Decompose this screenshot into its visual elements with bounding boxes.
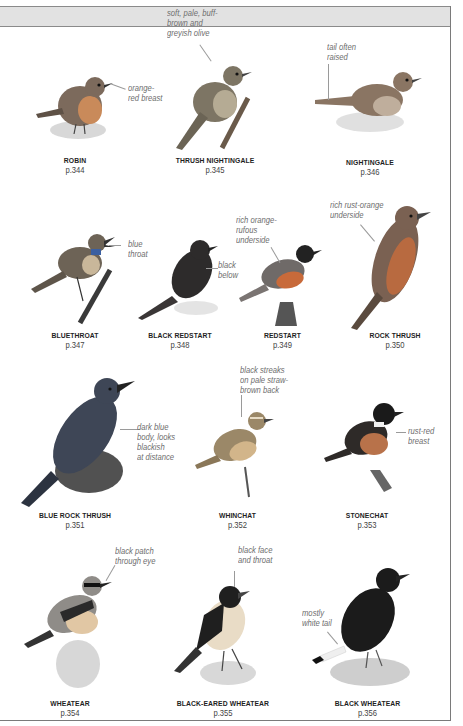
black-wheatear-page-ref: p.356 bbox=[319, 708, 417, 718]
whinchat-annotation: black streaks on pale straw- brown back bbox=[240, 365, 288, 395]
page-header-band bbox=[0, 6, 451, 27]
black-eared-wheatear-name: BLACK-EARED WHEATEAR bbox=[176, 699, 270, 708]
nightingale-name: NIGHTINGALE bbox=[315, 158, 426, 167]
bird-card-rock-thrush: rich rust-orange underside ROCK THRUSH p… bbox=[345, 200, 445, 355]
robin-page-ref: p.344 bbox=[28, 165, 122, 175]
stonechat-illustration-icon bbox=[322, 400, 412, 500]
black-wheatear-name: BLACK WHEATEAR bbox=[319, 699, 417, 708]
whinchat-name: WHINCHAT bbox=[201, 511, 273, 520]
nightingale-leader-line bbox=[328, 64, 329, 100]
whinchat-page-ref: p.352 bbox=[201, 520, 273, 530]
page-right-border bbox=[450, 6, 451, 721]
blue-rock-thrush-annotation: dark blue body, looks blackish at distan… bbox=[137, 422, 175, 462]
wheatear-illustration-icon bbox=[20, 570, 120, 690]
stonechat-name: STONECHAT bbox=[329, 511, 406, 520]
whinchat-leader-line bbox=[241, 395, 242, 417]
black-eared-wheatear-annotation: black face and throat bbox=[238, 545, 272, 565]
robin-name: ROBIN bbox=[28, 156, 122, 165]
redstart-page-ref: p.349 bbox=[242, 340, 323, 350]
bluethroat-name: BLUETHROAT bbox=[33, 331, 118, 340]
redstart-name: REDSTART bbox=[242, 331, 323, 340]
black-redstart-page-ref: p.348 bbox=[138, 340, 223, 350]
bird-card-black-eared-wheatear: black face and throat BLACK-EARED WHEATE… bbox=[168, 575, 278, 720]
page-bottom-border bbox=[0, 720, 451, 721]
rock-thrush-annotation: rich rust-orange underside bbox=[330, 200, 384, 220]
bluethroat-page-ref: p.347 bbox=[33, 340, 118, 350]
redstart-illustration-icon bbox=[235, 230, 330, 330]
rock-thrush-page-ref: p.350 bbox=[353, 340, 438, 350]
bird-card-black-wheatear: mostly white tail BLACK WHEATEAR p.356 bbox=[310, 560, 425, 720]
stonechat-annotation: rust-red breast bbox=[408, 426, 434, 446]
wheatear-annotation: black patch through eye bbox=[115, 546, 155, 566]
wheatear-page-ref: p.354 bbox=[28, 708, 113, 718]
stonechat-leader-line bbox=[396, 432, 406, 433]
thrush-nightingale-name: THRUSH NIGHTINGALE bbox=[168, 156, 262, 165]
thrush-nightingale-annotation: soft, pale, buff- brown and greyish oliv… bbox=[167, 8, 218, 38]
black-eared-wheatear-illustration-icon bbox=[168, 575, 278, 690]
nightingale-page-ref: p.346 bbox=[315, 167, 426, 177]
blue-rock-thrush-page-ref: p.351 bbox=[24, 520, 126, 530]
black-redstart-illustration-icon bbox=[130, 230, 230, 325]
robin-illustration-icon bbox=[20, 50, 130, 150]
nightingale-annotation: tail often raised bbox=[327, 42, 356, 62]
bird-card-bluethroat: blue throat BLUETHROAT p.347 bbox=[25, 225, 125, 355]
rock-thrush-name: ROCK THRUSH bbox=[353, 331, 438, 340]
bluethroat-leader-line bbox=[109, 245, 121, 246]
wheatear-name: WHEATEAR bbox=[28, 699, 113, 708]
black-redstart-leader-line bbox=[206, 268, 218, 269]
bird-card-nightingale: tail often raised NIGHTINGALE p.346 bbox=[305, 60, 435, 180]
bird-card-redstart: rich orange- rufous underside REDSTART p… bbox=[235, 230, 330, 355]
bluethroat-illustration-icon bbox=[25, 225, 125, 325]
nightingale-illustration-icon bbox=[305, 60, 435, 150]
bird-card-whinchat: black streaks on pale straw- brown back … bbox=[195, 405, 280, 530]
bird-card-wheatear: black patch through eye WHEATEAR p.354 bbox=[20, 570, 120, 720]
stonechat-page-ref: p.353 bbox=[329, 520, 406, 530]
blue-rock-thrush-illustration-icon bbox=[15, 375, 135, 505]
thrush-nightingale-page-ref: p.345 bbox=[168, 165, 262, 175]
bird-card-black-redstart: black below BLACK REDSTART p.348 bbox=[130, 230, 230, 355]
robin-annotation: orange- red breast bbox=[128, 83, 162, 103]
black-wheatear-annotation: mostly white tail bbox=[302, 608, 332, 628]
bird-card-stonechat: rust-red breast STONECHAT p.353 bbox=[322, 400, 412, 530]
bird-card-thrush-nightingale: soft, pale, buff- brown and greyish oliv… bbox=[160, 38, 270, 180]
blue-rock-thrush-name: BLUE ROCK THRUSH bbox=[24, 511, 126, 520]
bird-card-blue-rock-thrush: dark blue body, looks blackish at distan… bbox=[15, 375, 135, 530]
black-eared-wheatear-page-ref: p.355 bbox=[176, 708, 270, 718]
redstart-annotation: rich orange- rufous underside bbox=[236, 215, 277, 245]
thrush-nightingale-illustration-icon bbox=[160, 38, 270, 158]
whinchat-illustration-icon bbox=[195, 405, 280, 500]
black-eared-wheatear-leader-line bbox=[234, 571, 235, 587]
black-redstart-name: BLACK REDSTART bbox=[138, 331, 223, 340]
bird-card-robin: orange- red breast ROBIN p.344 bbox=[20, 50, 130, 180]
